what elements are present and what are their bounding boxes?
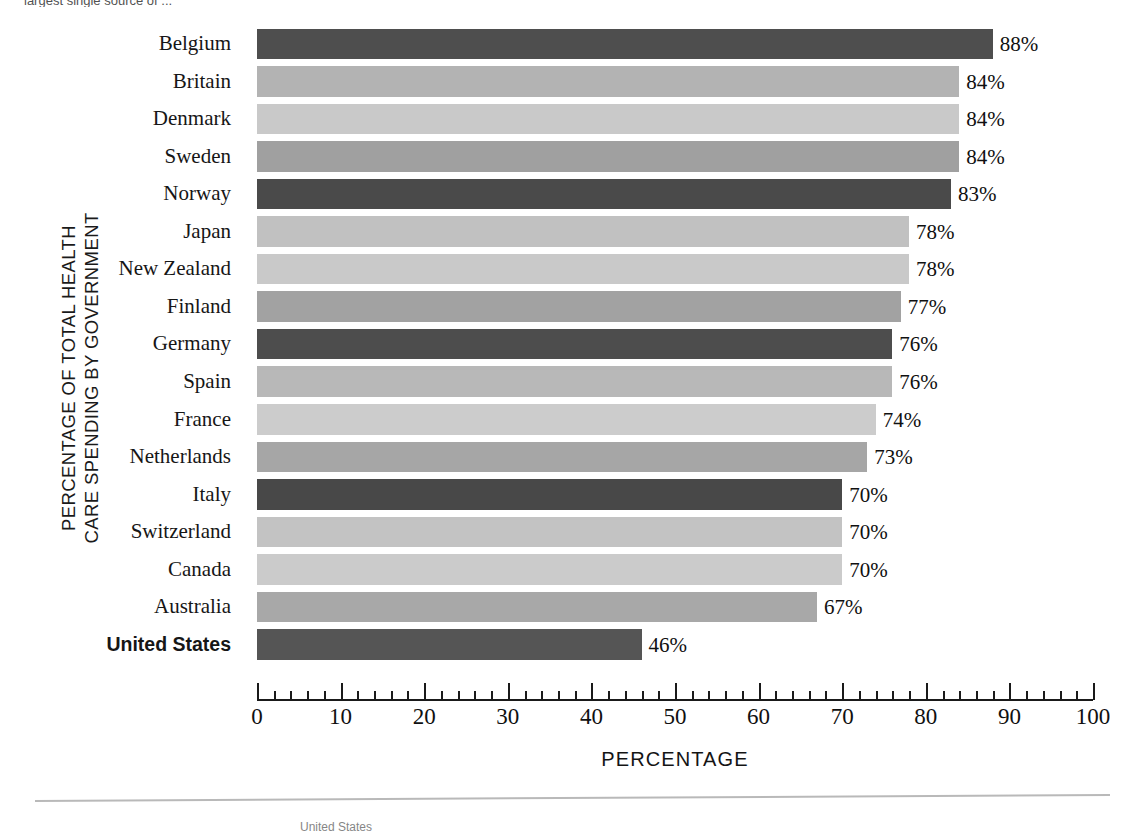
bar — [257, 141, 959, 172]
category-label: Australia — [0, 588, 244, 626]
bar-row: France74% — [0, 401, 1147, 439]
x-axis-minor-tick — [892, 691, 894, 700]
bar-value-label: 77% — [901, 289, 947, 325]
x-axis-minor-tick — [943, 691, 945, 700]
x-axis-tick-label: 50 — [645, 704, 705, 730]
category-label: France — [0, 401, 244, 439]
x-axis-minor-tick — [692, 691, 694, 700]
bar — [257, 104, 959, 135]
x-axis-tick-label: 20 — [394, 704, 454, 730]
bar-row: Germany76% — [0, 325, 1147, 363]
category-label: Canada — [0, 551, 244, 589]
bar — [257, 216, 909, 247]
bar — [257, 291, 901, 322]
x-axis-minor-tick — [541, 691, 543, 700]
x-axis-minor-tick — [825, 691, 827, 700]
bar — [257, 254, 909, 285]
bar-row: Norway83% — [0, 175, 1147, 213]
x-axis-minor-tick — [658, 691, 660, 700]
bar-value-label: 73% — [867, 439, 913, 475]
x-axis-minor-tick — [357, 691, 359, 700]
plot-area: Belgium88%Britain84%Denmark84%Sweden84%N… — [0, 0, 1147, 700]
x-axis-tick-label: 10 — [311, 704, 371, 730]
bar-row: Australia67% — [0, 588, 1147, 626]
x-axis-major-tick — [1009, 683, 1011, 700]
category-label: Sweden — [0, 138, 244, 176]
x-axis-minor-tick — [1026, 691, 1028, 700]
x-axis-major-tick — [926, 683, 928, 700]
x-axis-major-tick — [842, 683, 844, 700]
x-axis-minor-tick — [775, 691, 777, 700]
bar-value-label: 46% — [642, 627, 688, 663]
x-axis-major-tick — [675, 683, 677, 700]
x-axis-minor-tick — [909, 691, 911, 700]
x-axis-minor-tick — [324, 691, 326, 700]
x-axis-minor-tick — [959, 691, 961, 700]
x-axis-minor-tick — [725, 691, 727, 700]
bar-value-label: 83% — [951, 176, 997, 212]
x-axis-tick-label: 30 — [478, 704, 538, 730]
x-axis-tick-label: 40 — [561, 704, 621, 730]
bar-value-label: 88% — [993, 26, 1039, 62]
bar-row: Netherlands73% — [0, 438, 1147, 476]
bar-row: Finland77% — [0, 288, 1147, 326]
x-axis-minor-tick — [441, 691, 443, 700]
bar-row: New Zealand78% — [0, 250, 1147, 288]
x-axis-minor-tick — [993, 691, 995, 700]
bar — [257, 366, 892, 397]
category-label: Britain — [0, 63, 244, 101]
bar-row: Denmark84% — [0, 100, 1147, 138]
category-label: Switzerland — [0, 513, 244, 551]
x-axis-minor-tick — [458, 691, 460, 700]
x-axis-major-tick — [1093, 683, 1095, 700]
bar — [257, 592, 817, 623]
bar-row: Spain76% — [0, 363, 1147, 401]
bar-value-label: 74% — [876, 402, 922, 438]
x-axis-minor-tick — [742, 691, 744, 700]
bar-value-label: 78% — [909, 251, 955, 287]
bar-value-label: 76% — [892, 326, 938, 362]
bar — [257, 629, 642, 660]
bar-row: Canada70% — [0, 551, 1147, 589]
x-axis-minor-tick — [1076, 691, 1078, 700]
x-axis-tick-label: 0 — [227, 704, 287, 730]
category-label: New Zealand — [0, 250, 244, 288]
x-axis-minor-tick — [809, 691, 811, 700]
category-label: Germany — [0, 325, 244, 363]
x-axis-minor-tick — [525, 691, 527, 700]
category-label: Finland — [0, 288, 244, 326]
category-label: Japan — [0, 213, 244, 251]
bar — [257, 29, 993, 60]
x-axis-tick-label: 60 — [729, 704, 789, 730]
x-axis-minor-tick — [474, 691, 476, 700]
bar-value-label: 70% — [842, 477, 888, 513]
x-axis-minor-tick — [642, 691, 644, 700]
bar-value-label: 76% — [892, 364, 938, 400]
category-label: Denmark — [0, 100, 244, 138]
bar-value-label: 67% — [817, 589, 863, 625]
bar — [257, 66, 959, 97]
x-axis-major-tick — [257, 683, 259, 700]
x-axis-title: PERCENTAGE — [257, 748, 1093, 771]
x-axis-minor-tick — [407, 691, 409, 700]
x-axis-minor-tick — [558, 691, 560, 700]
bar — [257, 554, 842, 585]
bar-value-label: 84% — [959, 64, 1005, 100]
bar-row: Sweden84% — [0, 138, 1147, 176]
x-axis-minor-tick — [976, 691, 978, 700]
bar-row: Switzerland70% — [0, 513, 1147, 551]
x-axis-major-tick — [508, 683, 510, 700]
x-axis-minor-tick — [1060, 691, 1062, 700]
bar-row: United States46% — [0, 626, 1147, 664]
x-axis-tick-label: 80 — [896, 704, 956, 730]
x-axis-minor-tick — [708, 691, 710, 700]
x-axis-minor-tick — [625, 691, 627, 700]
x-axis-minor-tick — [274, 691, 276, 700]
bar-value-label: 84% — [959, 139, 1005, 175]
category-label: Norway — [0, 175, 244, 213]
bar — [257, 517, 842, 548]
x-axis-minor-tick — [575, 691, 577, 700]
x-axis-major-tick — [341, 683, 343, 700]
bar — [257, 404, 876, 435]
